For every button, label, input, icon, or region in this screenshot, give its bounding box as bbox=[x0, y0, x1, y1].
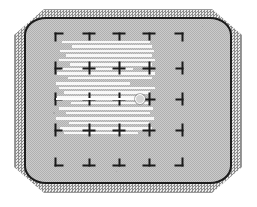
white-streak bbox=[64, 132, 138, 134]
mark-plus bbox=[113, 62, 126, 75]
white-streak bbox=[56, 117, 154, 120]
mark-tee-up bbox=[143, 156, 156, 169]
white-streak bbox=[66, 54, 152, 57]
white-streak bbox=[66, 112, 150, 114]
mark-corner-bottom-right bbox=[173, 156, 186, 169]
mark-plus bbox=[143, 62, 156, 75]
mark-tee-up bbox=[113, 156, 126, 169]
screen-speck bbox=[53, 112, 55, 114]
white-streak bbox=[60, 50, 154, 52]
mark-tee-up bbox=[83, 156, 96, 169]
white-streak bbox=[57, 72, 155, 75]
cursor-trail bbox=[56, 98, 138, 100]
white-streak bbox=[59, 87, 155, 89]
mark-tee-down bbox=[113, 31, 126, 44]
screen-speck bbox=[202, 26, 203, 27]
screenshot-root bbox=[0, 0, 257, 207]
white-streak bbox=[72, 45, 152, 48]
mark-tee-down bbox=[83, 31, 96, 44]
mark-corner-top-left bbox=[53, 31, 66, 44]
white-streak bbox=[62, 41, 150, 43]
mark-tee-left bbox=[173, 124, 186, 137]
white-streak bbox=[68, 77, 152, 79]
crt-screen[interactable] bbox=[24, 17, 232, 184]
white-streak bbox=[59, 59, 155, 61]
screen-inner bbox=[26, 19, 230, 182]
mark-plus bbox=[83, 124, 96, 137]
white-streak bbox=[61, 68, 133, 70]
mark-tee-right bbox=[53, 124, 66, 137]
mark-corner-top-right bbox=[173, 31, 186, 44]
mark-corner-bottom-left bbox=[53, 156, 66, 169]
white-streak bbox=[70, 63, 152, 66]
white-streak bbox=[56, 82, 130, 85]
mark-plus bbox=[143, 124, 156, 137]
cursor-dot[interactable] bbox=[135, 94, 145, 104]
mark-plus bbox=[113, 124, 126, 137]
mark-tee-right bbox=[53, 62, 66, 75]
mark-tee-left bbox=[173, 62, 186, 75]
mark-plus bbox=[83, 62, 96, 75]
mark-tee-down bbox=[143, 31, 156, 44]
white-streak bbox=[60, 127, 152, 130]
screen-speck bbox=[116, 171, 117, 172]
white-streak bbox=[69, 122, 149, 124]
mark-tee-left bbox=[173, 93, 186, 106]
white-streak bbox=[59, 107, 153, 110]
